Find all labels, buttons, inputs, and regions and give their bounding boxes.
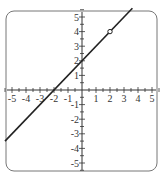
y-tick-label: 1 <box>74 70 79 81</box>
coordinate-plane: -5-4-3-2-11234554321-1-2-3-4-5 <box>0 0 163 175</box>
x-tick-label: 5 <box>150 93 155 104</box>
x-tick-label: 3 <box>122 93 127 104</box>
x-tick-label: 4 <box>136 93 141 104</box>
y-tick-label: -1 <box>71 99 79 110</box>
y-tick-label: 4 <box>74 26 79 37</box>
x-tick-label: -4 <box>22 93 30 104</box>
y-tick-label: -3 <box>71 128 79 139</box>
open-circle-point <box>108 29 112 33</box>
y-tick-label: -5 <box>71 158 79 169</box>
x-tick-label: 2 <box>108 93 113 104</box>
y-tick-label: 5 <box>74 12 79 23</box>
y-tick-label: 3 <box>74 41 79 52</box>
y-tick-label: -2 <box>71 114 79 125</box>
y-tick-label: -4 <box>71 143 79 154</box>
x-tick-label: -5 <box>8 93 16 104</box>
x-tick-label: 1 <box>94 93 99 104</box>
x-tick-label: -2 <box>50 93 58 104</box>
